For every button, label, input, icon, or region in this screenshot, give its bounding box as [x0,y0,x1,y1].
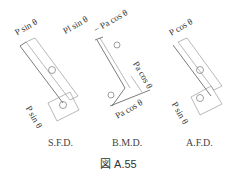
sfd-caption: S.F.D. [48,137,73,148]
figure-caption: 図 A.55 [100,155,137,171]
afd-caption: A.F.D. [186,137,213,148]
bmd-caption: B.M.D. [112,137,142,148]
